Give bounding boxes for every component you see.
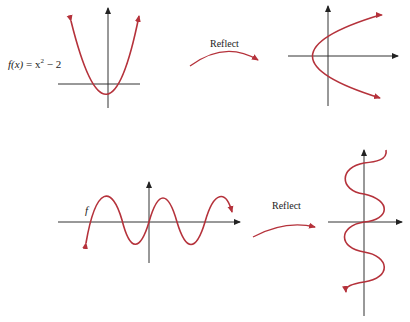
reflect-arrow-bottom <box>253 225 315 237</box>
tail-text: − 2 <box>44 58 61 70</box>
reflect-arrow-top <box>190 51 258 66</box>
f-label: f <box>85 204 88 216</box>
top-right-graph <box>288 6 398 106</box>
vertical-sine-curve <box>345 150 387 292</box>
bottom-left-graph <box>58 182 240 263</box>
sine-curve <box>86 196 232 244</box>
diagram-canvas <box>0 0 410 322</box>
reflect-label-top: Reflect <box>210 38 239 49</box>
bottom-right-graph <box>328 150 402 316</box>
eq-text: = x <box>23 58 40 70</box>
function-label: f(x) = x2 − 2 <box>8 57 61 70</box>
top-left-graph <box>58 8 140 108</box>
reflect-label-bottom: Reflect <box>272 200 301 211</box>
fx-text: f(x) <box>8 58 23 70</box>
parabola-curve <box>71 16 139 94</box>
